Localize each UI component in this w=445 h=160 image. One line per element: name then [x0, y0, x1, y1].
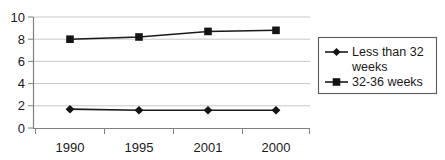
legend-label-continued: weeks — [351, 60, 387, 74]
chart-canvas: 10 8 6 4 2 0 1990 1995 2001 2000 — [0, 0, 445, 160]
legend: Less than 32 weeks 32-36 weeks — [319, 38, 437, 94]
y-axis-label: 6 — [18, 54, 25, 69]
line-chart: 10 8 6 4 2 0 1990 1995 2001 2000 — [0, 0, 445, 160]
y-axis-label: 10 — [11, 10, 25, 25]
y-axis-label: 0 — [18, 121, 25, 136]
x-axis-label: 2000 — [262, 140, 291, 155]
square-marker — [272, 27, 280, 35]
y-axis-label: 8 — [18, 32, 25, 47]
legend-label: 32-36 weeks — [352, 75, 423, 89]
x-axis-label: 2001 — [194, 140, 223, 155]
square-marker-icon — [333, 78, 341, 86]
y-axis-label: 2 — [18, 98, 25, 113]
square-marker — [135, 33, 143, 41]
square-marker — [204, 28, 212, 36]
x-axis-label: 1990 — [56, 140, 85, 155]
x-axis-label: 1995 — [125, 140, 154, 155]
legend-label: Less than 32 — [352, 45, 424, 59]
y-axis-label: 4 — [18, 76, 25, 91]
square-marker — [66, 35, 74, 43]
